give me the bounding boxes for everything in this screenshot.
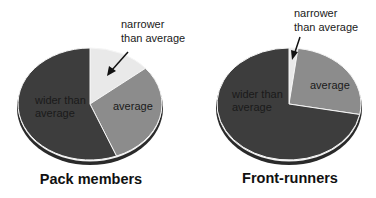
label-wider-line2: average bbox=[232, 101, 272, 113]
label-wider-line2: average bbox=[35, 107, 75, 119]
label-narrower-line2: than average bbox=[294, 21, 358, 33]
label-wider-line1: wider than bbox=[34, 94, 86, 106]
label-narrower-line1: narrower bbox=[121, 18, 165, 30]
chart-title-front-runners: Front-runners bbox=[242, 170, 338, 186]
label-average: average bbox=[113, 100, 153, 112]
pie-charts: narrower than average average wider than… bbox=[0, 0, 376, 198]
chart-title-pack-members: Pack members bbox=[40, 171, 142, 187]
label-average: average bbox=[310, 79, 350, 91]
label-narrower-line2: than average bbox=[121, 32, 185, 44]
label-wider-line1: wider than bbox=[231, 88, 283, 100]
label-narrower-line1: narrower bbox=[294, 7, 338, 19]
